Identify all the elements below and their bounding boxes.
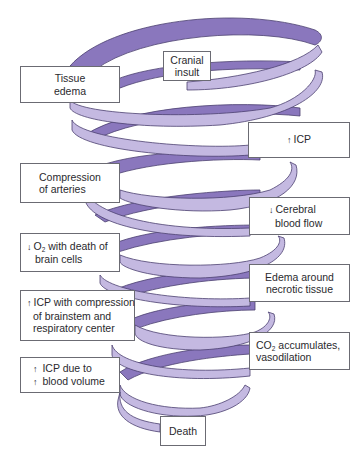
node-co2-accumulates: CO2 accumulates, vasodilation [249,332,350,370]
node-increased-icp: ↑ICP [248,122,350,158]
down-arrow-icon: ↓ [27,242,32,252]
down-arrow-icon: ↓ [269,205,274,215]
node-label: Tissue [55,72,86,85]
node-label: vasodilation [256,351,311,364]
node-label: Compression [39,171,101,184]
up-arrow-icon: ↑ [27,298,32,308]
node-decreased-o2: ↓O2 with death of brain cells [20,233,120,272]
node-compression-of-arteries: Compression of arteries [20,163,120,203]
node-label: Death [169,425,197,438]
node-label: ICP [293,133,311,145]
node-decreased-cerebral-blood-flow: ↓Cerebral blood flow [249,197,350,235]
node-label: CO [256,339,272,351]
node-label: Edema around [265,271,334,284]
node-label: ICP due to [42,362,91,374]
node-label: ICP with compression [34,296,135,308]
up-arrow-icon: ↑ [33,364,38,374]
node-label: with death of [45,240,107,252]
node-label: edema [54,85,86,98]
node-label: O [34,240,42,252]
node-cranial-insult: Cranial insult [163,51,211,81]
node-icp-compression-brainstem: ↑ICP with compression of brainstem and r… [20,290,135,341]
node-death: Death [160,416,206,446]
node-tissue-edema: Tissue edema [20,66,120,103]
node-label: necrotic tissue [266,283,333,296]
node-label: Cranial [170,54,203,67]
up-arrow-icon: ↑ [287,135,292,145]
node-label: Cerebral [276,203,316,215]
node-label: of arteries [39,183,86,196]
node-label: of brainstem and [27,310,111,323]
node-label: respiratory center [27,322,115,335]
up-arrow-icon: ↑ [33,377,38,387]
node-label: insult [175,66,200,79]
node-label: brain cells [27,253,82,266]
node-label: blood flow [269,217,322,230]
node-label: blood volume [42,375,104,387]
node-label: accumulates, [275,339,340,351]
node-icp-due-to-blood-volume: ↑ ICP due to ↑ blood volume [20,357,120,393]
node-edema-around-necrotic-tissue: Edema around necrotic tissue [249,264,350,302]
